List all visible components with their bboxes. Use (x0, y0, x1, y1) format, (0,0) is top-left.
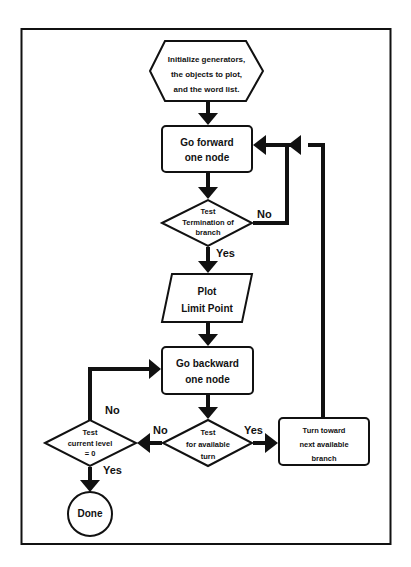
test-termination-label: Test Termination of branch (168, 207, 248, 239)
test-turn-label: Test for available turn (168, 427, 248, 463)
test-turn-line-3: turn (168, 451, 248, 463)
edge-label-term-yes: Yes (216, 247, 235, 259)
init-line-1: Initialize generators, (160, 52, 253, 67)
plot-label: Plot Limit Point (167, 283, 247, 317)
done-label: Done (68, 508, 112, 520)
init-label: Initialize generators, the objects to pl… (160, 52, 253, 97)
arrow-backward-to-turntest (198, 407, 218, 419)
test-turn-line-1: Test (168, 427, 248, 439)
backward-label: Go backward one node (162, 356, 253, 388)
test-level-line-2: current level (50, 439, 130, 450)
turn-line-3: branch (279, 452, 369, 466)
arrow-init-to-forward (198, 113, 218, 125)
edge-label-turn-yes: Yes (244, 424, 263, 436)
edge-label-term-no: No (257, 208, 272, 220)
forward-label: Go forward one node (162, 135, 252, 165)
arrow-forward-to-term (198, 187, 218, 199)
test-turn-line-2: for available (168, 439, 248, 451)
done-text: Done (68, 508, 112, 520)
plot-line-1: Plot (167, 283, 247, 300)
forward-line-1: Go forward (162, 135, 252, 150)
arrow-term-to-plot (198, 261, 218, 273)
arrow-plot-to-backward (198, 334, 218, 346)
test-level-line-1: Test (50, 428, 130, 439)
arrow-yes-to-turn (265, 433, 278, 453)
init-line-2: the objects to plot, (160, 67, 253, 82)
edge-label-turn-no: No (153, 424, 168, 436)
arrow-level-to-backward (149, 359, 161, 379)
backward-line-2: one node (162, 372, 253, 388)
test-termination-line-1: Test (168, 207, 248, 218)
test-termination-line-2: Termination of (168, 218, 248, 229)
init-line-3: and the word list. (160, 82, 253, 97)
arrow-no-to-forward (253, 135, 266, 155)
test-termination-line-3: branch (168, 228, 248, 239)
backward-line-1: Go backward (162, 356, 253, 372)
turn-label: Turn toward next available branch (279, 424, 369, 466)
turn-line-1: Turn toward (279, 424, 369, 438)
test-level-line-3: = 0 (50, 449, 130, 460)
arrow-level-to-done (80, 480, 100, 492)
turn-line-2: next available (279, 438, 369, 452)
plot-line-2: Limit Point (167, 300, 247, 317)
forward-line-2: one node (162, 150, 252, 165)
edge-label-level-no: No (105, 404, 120, 416)
arrow-no-to-level (137, 433, 150, 453)
test-level-label: Test current level = 0 (50, 428, 130, 460)
arrow-turn-to-forward (288, 135, 301, 155)
edge-label-level-yes: Yes (103, 464, 122, 476)
